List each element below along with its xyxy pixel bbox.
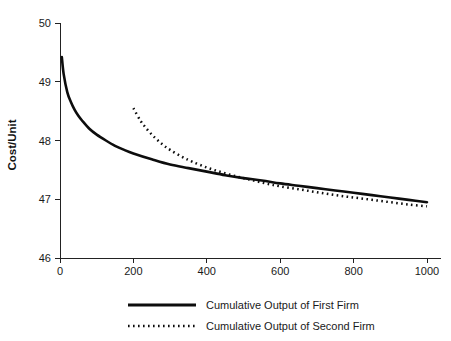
- legend-label: Cumulative Output of First Firm: [206, 299, 359, 311]
- y-tick-label: 48: [39, 135, 51, 147]
- chart-legend: Cumulative Output of First FirmCumulativ…: [128, 299, 375, 332]
- legend-label: Cumulative Output of Second Firm: [206, 320, 375, 332]
- chart-canvas: 4647484950 02004006008001000 Cumulative …: [0, 0, 451, 341]
- x-tick-label: 600: [271, 265, 289, 277]
- y-axis-title: Cost/Unit: [6, 119, 18, 170]
- y-tick-label: 50: [39, 17, 51, 29]
- series-layer: [62, 57, 427, 206]
- y-tick-label: 46: [39, 252, 51, 264]
- learning-curve-chart: 4647484950 02004006008001000 Cumulative …: [0, 0, 451, 341]
- y-axis: 4647484950: [39, 17, 60, 264]
- y-tick-label: 47: [39, 193, 51, 205]
- x-tick-label: 1000: [415, 265, 439, 277]
- x-tick-label: 400: [198, 265, 216, 277]
- x-tick-label: 800: [344, 265, 362, 277]
- series-line-first-firm: [62, 57, 427, 202]
- x-tick-label: 0: [57, 265, 63, 277]
- x-tick-label: 200: [124, 265, 142, 277]
- x-axis: 02004006008001000: [57, 258, 441, 277]
- y-tick-label: 49: [39, 76, 51, 88]
- series-line-second-firm: [133, 108, 427, 206]
